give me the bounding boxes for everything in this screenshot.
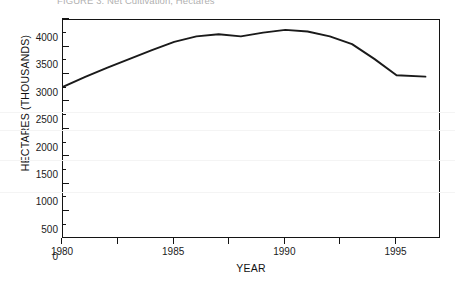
y-tick-major [62, 73, 69, 74]
y-tick-label: 1000 [12, 197, 58, 207]
x-tick-label: 1985 [148, 247, 198, 257]
scan-artifact [0, 130, 455, 131]
y-tick-major [62, 100, 69, 101]
y-axis-label: HECTARES (THOUSANDS) [19, 18, 31, 188]
y-tick-major [62, 18, 69, 19]
series-line-net-cultivation [63, 30, 425, 87]
figure-container: FIGURE 3. Net Cultivation, Hectares 0500… [0, 0, 455, 282]
x-tick-label: 1995 [371, 247, 421, 257]
y-tick-label: 500 [12, 225, 58, 235]
x-tick-major [228, 238, 229, 244]
y-tick-major [62, 183, 69, 184]
y-tick-minor [62, 87, 66, 88]
figure-title: FIGURE 3. Net Cultivation, Hectares [57, 0, 447, 6]
y-tick-minor [62, 169, 66, 170]
y-tick-major [62, 237, 69, 238]
x-tick-label: 1980 [37, 247, 87, 257]
x-tick-label: 1990 [259, 247, 309, 257]
y-tick-minor [62, 196, 66, 197]
y-tick-minor [62, 224, 66, 225]
y-axis: 05001000150020002500300035004000 [8, 19, 58, 238]
y-tick-minor [62, 59, 66, 60]
x-tick-major [395, 238, 396, 244]
x-tick-major [61, 238, 62, 244]
scan-artifact [0, 112, 455, 113]
y-tick-minor [62, 142, 66, 143]
y-tick-major [62, 128, 69, 129]
x-tick-major [117, 238, 118, 244]
x-tick-major [284, 238, 285, 244]
plot-area [62, 19, 440, 238]
y-tick-major [62, 210, 69, 211]
y-tick-minor [62, 114, 66, 115]
scan-artifact [0, 160, 455, 161]
x-axis-label: YEAR [62, 262, 440, 274]
x-tick-major [173, 238, 174, 244]
x-tick-major [339, 238, 340, 244]
y-tick-major [62, 46, 69, 47]
y-tick-major [62, 155, 69, 156]
y-tick-minor [62, 32, 66, 33]
scan-artifact [0, 192, 455, 193]
